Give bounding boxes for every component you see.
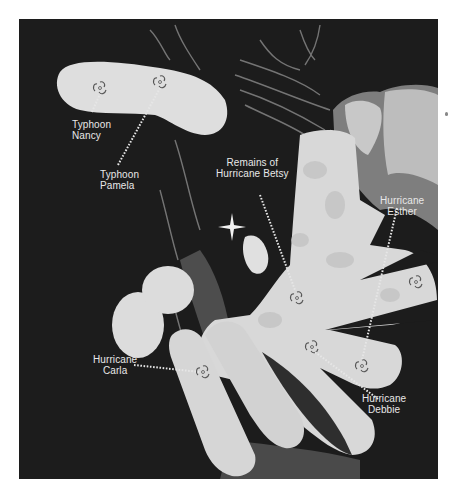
label-hurricane-betsy: Remains of Hurricane Betsy [216, 157, 289, 179]
label-hurricane-debbie: Hurricane Debbie [362, 393, 406, 415]
print-speck [445, 112, 448, 116]
cloud-map-illustration [0, 0, 461, 495]
cloud-puff-2 [383, 89, 438, 185]
label-typhoon-pamela: Typhoon Pamela [100, 169, 139, 191]
small-cloud [243, 236, 268, 274]
label-hurricane-esther: Hurricane Esther [380, 195, 424, 217]
star-marker [218, 213, 246, 241]
cloud-blob-west-2 [142, 266, 194, 314]
label-typhoon-nancy: Typhoon Nancy [72, 119, 111, 141]
label-hurricane-carla: Hurricane Carla [93, 354, 137, 376]
